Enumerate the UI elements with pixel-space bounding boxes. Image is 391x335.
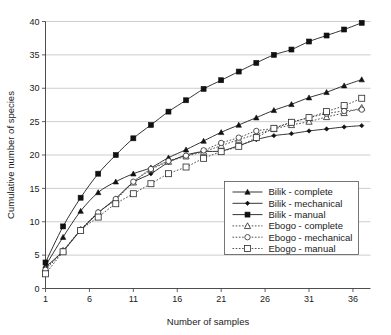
series-marker (271, 125, 277, 131)
series-marker (218, 140, 223, 145)
series-marker (307, 39, 312, 44)
legend-label: Ebogo - complete (269, 220, 343, 231)
y-tick-label-15: 15 (29, 184, 39, 194)
series-marker (201, 86, 206, 91)
x-tick-label-16: 16 (172, 294, 182, 304)
series-marker (342, 27, 347, 32)
chart-background (0, 0, 391, 335)
series-marker (60, 249, 66, 255)
series-marker (61, 224, 66, 229)
series-marker (95, 214, 101, 220)
chart-legend: Bilik - completeBilik - mechanicalBilik … (225, 182, 359, 255)
series-marker (254, 60, 259, 65)
y-tick-label-5: 5 (34, 250, 39, 260)
series-marker (236, 135, 241, 140)
series-marker (236, 143, 242, 149)
chart-figure: 0510152025303540 16111621263136 Bilik - … (0, 0, 391, 335)
series-marker (165, 171, 171, 177)
series-marker (148, 122, 153, 127)
series-marker (306, 115, 312, 121)
series-marker (288, 119, 294, 125)
series-marker (183, 164, 189, 170)
series-marker (219, 78, 224, 83)
series-marker (96, 171, 101, 176)
series-marker (359, 95, 365, 101)
series-marker (324, 33, 329, 38)
x-tick-label-36: 36 (348, 294, 358, 304)
series-marker (254, 128, 259, 133)
x-tick-label-6: 6 (87, 294, 92, 304)
y-tick-label-40: 40 (29, 17, 39, 27)
legend-label: Bilik - manual (269, 209, 326, 220)
series-marker (253, 135, 259, 141)
series-marker (201, 155, 207, 161)
series-marker (78, 195, 83, 200)
series-marker (131, 136, 136, 141)
series-marker (324, 109, 330, 115)
species-accumulation-chart: 0510152025303540 16111621263136 Bilik - … (0, 0, 391, 335)
series-marker (271, 52, 276, 57)
legend-swatch-marker (245, 212, 250, 217)
y-tick-label-0: 0 (34, 284, 39, 294)
legend-swatch-marker (245, 235, 250, 240)
series-marker (201, 148, 206, 153)
series-marker (289, 47, 294, 52)
series-marker (166, 109, 171, 114)
legend-swatch-marker (245, 246, 251, 252)
y-tick-label-30: 30 (29, 83, 39, 93)
series-marker (166, 158, 171, 163)
series-marker (183, 153, 188, 158)
series-marker (341, 108, 346, 113)
x-tick-label-1: 1 (43, 294, 48, 304)
y-axis-title: Cumulative number of species (5, 91, 16, 219)
legend-label: Bilik - complete (269, 186, 333, 197)
series-marker (218, 149, 224, 155)
y-tick-label-10: 10 (29, 217, 39, 227)
series-marker (341, 103, 347, 109)
series-marker (359, 20, 364, 25)
series-marker (148, 181, 154, 187)
series-marker (130, 191, 136, 197)
series-marker (236, 69, 241, 74)
series-marker (359, 107, 364, 112)
y-tick-label-35: 35 (29, 50, 39, 60)
series-marker (148, 166, 153, 171)
y-tick-label-20: 20 (29, 150, 39, 160)
series-marker (184, 98, 189, 103)
series-marker (43, 260, 48, 265)
series-marker (113, 153, 118, 158)
x-tick-label-31: 31 (304, 294, 314, 304)
x-tick-label-26: 26 (260, 294, 270, 304)
legend-label: Bilik - mechanical (269, 198, 343, 209)
x-axis-title: Number of samples (167, 316, 250, 327)
x-tick-label-21: 21 (216, 294, 226, 304)
legend-label: Ebogo - mechanical (269, 232, 353, 243)
series-marker (43, 271, 49, 277)
x-tick-label-11: 11 (129, 294, 138, 304)
series-marker (113, 201, 119, 207)
y-tick-label-25: 25 (29, 117, 39, 127)
legend-label: Ebogo - manual (269, 243, 336, 254)
series-marker (131, 179, 136, 184)
series-marker (78, 227, 84, 233)
